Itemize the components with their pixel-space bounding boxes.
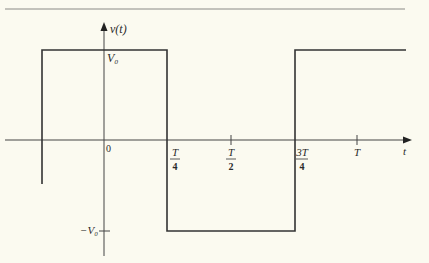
tick-label-quarter-period: T 4 (170, 146, 180, 172)
y-axis-arrow-icon (101, 22, 108, 31)
x-axis-label: t (403, 145, 407, 157)
svg-text:4: 4 (173, 161, 178, 172)
svg-text:2: 2 (229, 161, 234, 172)
origin-label: 0 (106, 143, 111, 154)
x-axis-arrow-icon (403, 137, 412, 144)
svg-text:4: 4 (300, 161, 305, 172)
level-high-label: V₀ (107, 51, 119, 65)
level-low-label: −V₀ (80, 224, 98, 236)
tick-label-three-quarter-period: 3T 4 (295, 146, 309, 172)
svg-text:T: T (172, 146, 179, 158)
svg-text:3T: 3T (295, 146, 309, 158)
tick-label-half-period: T 2 (226, 146, 236, 172)
square-wave-diagram: v(t) t 0 V₀ −V₀ T 4 T 2 3T 4 T (0, 0, 429, 263)
y-axis-label: v(t) (110, 22, 127, 36)
svg-text:T: T (228, 146, 235, 158)
tick-label-period: T (354, 146, 361, 158)
